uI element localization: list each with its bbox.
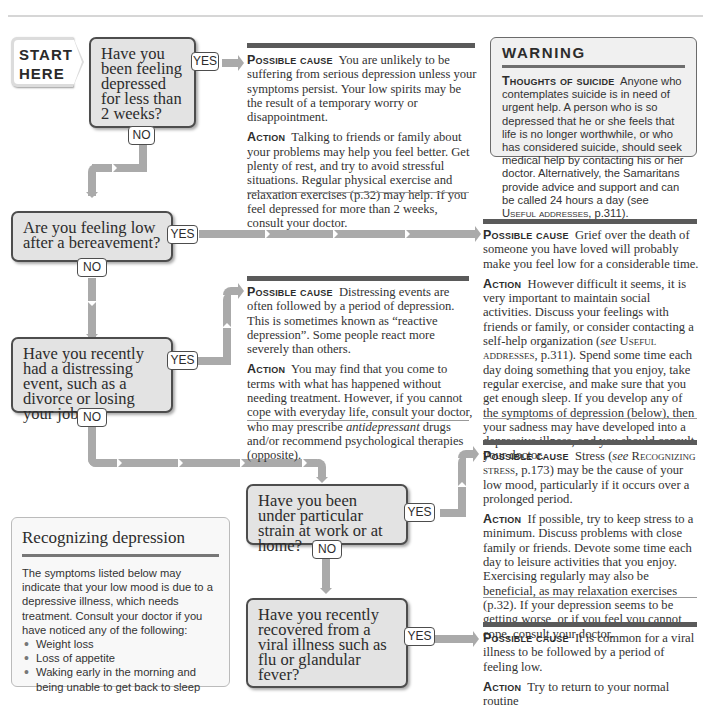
start-label-line1: START bbox=[19, 45, 73, 64]
symptom-item: Waking early in the morning and being un… bbox=[22, 665, 219, 693]
connector-q3-yes bbox=[223, 287, 239, 295]
see-text: see bbox=[600, 334, 616, 348]
warning-text-end: , p.311). bbox=[588, 207, 628, 219]
answer-divider bbox=[483, 219, 697, 224]
answer-panel-q3: Possible cause Distressing events are of… bbox=[247, 285, 477, 469]
possible-cause-label: Possible cause bbox=[247, 285, 333, 299]
action-label: Action bbox=[247, 130, 285, 144]
arrow-head-icon bbox=[238, 55, 244, 71]
question-text: Have you recently recovered from a viral… bbox=[258, 605, 387, 684]
connector-q3-yes bbox=[223, 292, 231, 365]
connector-q5-yes bbox=[433, 635, 473, 643]
answer-panel-q4: Possible cause Stress (see Recognizing s… bbox=[483, 449, 700, 647]
antidepressant-term: antidepressant bbox=[346, 420, 420, 434]
arrow-down-icon bbox=[320, 588, 332, 594]
connector-q4-no bbox=[322, 557, 330, 590]
chevron-icon bbox=[117, 458, 122, 468]
chevron-icon bbox=[112, 163, 117, 173]
no-button-q4[interactable]: NO bbox=[312, 540, 342, 559]
yes-button-q3[interactable]: YES bbox=[167, 351, 198, 370]
answer-panel-q2: Possible cause Grief over the death of s… bbox=[483, 228, 700, 469]
answer-divider bbox=[483, 622, 697, 627]
action-label: Action bbox=[483, 680, 521, 694]
top-divider bbox=[513, 15, 703, 17]
symptom-list: Weight loss Loss of appetite Waking earl… bbox=[22, 637, 219, 694]
chevron-icon bbox=[87, 301, 97, 306]
answer-divider bbox=[483, 418, 697, 419]
answer-divider bbox=[247, 192, 469, 193]
action-label: Action bbox=[483, 512, 521, 526]
chevron-icon bbox=[457, 482, 467, 487]
possible-cause-label: Possible cause bbox=[483, 631, 569, 645]
action-text: Talking to friends or family about your … bbox=[247, 130, 469, 230]
connector-q1-no bbox=[92, 164, 147, 172]
yes-button-q2[interactable]: YES bbox=[167, 225, 198, 244]
answer-divider bbox=[483, 597, 697, 598]
chevron-icon bbox=[240, 458, 245, 468]
connector-q1-yes bbox=[222, 59, 238, 67]
arrow-down-icon bbox=[86, 192, 98, 198]
question-text: Are you feeling low after a bereavement? bbox=[23, 218, 160, 252]
warning-heading: Thoughts of suicide bbox=[502, 74, 614, 88]
warning-divider bbox=[502, 65, 685, 68]
arrow-head-icon bbox=[238, 283, 244, 299]
chevron-icon bbox=[222, 323, 232, 328]
yes-button-q5[interactable]: YES bbox=[404, 627, 435, 646]
question-box-q1: Have you been feeling depressed for less… bbox=[89, 37, 196, 128]
start-label-line2: HERE bbox=[19, 64, 73, 83]
answer-panel-q1: Possible cause You are unlikely to be su… bbox=[247, 53, 477, 237]
question-box-q3: Have you recently had a distressing even… bbox=[11, 337, 173, 413]
answer-panel-q5: Possible cause It is common for a viral … bbox=[483, 631, 700, 709]
recognizing-depression-box: Recognizing depression The symptoms list… bbox=[11, 517, 230, 687]
arrow-down-icon bbox=[316, 477, 328, 483]
recognizing-intro: The symptoms listed below may indicate t… bbox=[22, 566, 219, 637]
possible-cause-label: Possible cause bbox=[247, 53, 333, 67]
yes-button-q4[interactable]: YES bbox=[404, 503, 435, 522]
no-button-q2[interactable]: NO bbox=[77, 258, 107, 277]
question-text: Have you been feeling depressed for less… bbox=[101, 44, 182, 123]
answer-divider bbox=[483, 440, 697, 445]
warning-title: WARNING bbox=[502, 44, 685, 61]
no-button-q1[interactable]: NO bbox=[128, 126, 155, 145]
start-marker-inner-arrow bbox=[74, 40, 82, 84]
question-box-q4: Have you been under particular strain at… bbox=[246, 484, 408, 545]
see-text: see bbox=[612, 449, 628, 463]
start-here-label: START HERE bbox=[19, 45, 73, 83]
possible-cause-label: Possible cause bbox=[483, 228, 569, 242]
top-divider bbox=[8, 15, 513, 17]
recognizing-title: Recognizing depression bbox=[22, 528, 219, 548]
answer-divider bbox=[247, 43, 475, 48]
action-text-end: , p.311). Spend some time each day doing… bbox=[483, 348, 694, 462]
useful-addresses-link[interactable]: Useful addresses bbox=[502, 207, 588, 219]
symptom-item: Loss of appetite bbox=[22, 651, 219, 665]
recognizing-divider bbox=[22, 554, 219, 557]
warning-box: WARNING Thoughts of suicide Anyone who c… bbox=[490, 37, 697, 157]
connector-q2-no bbox=[88, 278, 96, 338]
warning-text: Anyone who contemplates suicide is in ne… bbox=[502, 75, 684, 206]
chevron-icon bbox=[178, 458, 183, 468]
cause-text: Stress ( bbox=[575, 449, 612, 463]
question-box-q2: Are you feeling low after a bereavement? bbox=[11, 211, 173, 262]
yes-button-q1[interactable]: YES bbox=[191, 52, 219, 71]
answer-divider bbox=[247, 420, 469, 421]
action-label: Action bbox=[483, 277, 521, 291]
answer-divider bbox=[247, 276, 469, 281]
possible-cause-label: Possible cause bbox=[483, 449, 569, 463]
action-label: Action bbox=[247, 362, 285, 376]
symptom-item: Weight loss bbox=[22, 637, 219, 651]
no-button-q3[interactable]: NO bbox=[77, 408, 107, 427]
question-box-q5: Have you recently recovered from a viral… bbox=[246, 598, 408, 688]
arrow-head-icon bbox=[473, 631, 479, 647]
